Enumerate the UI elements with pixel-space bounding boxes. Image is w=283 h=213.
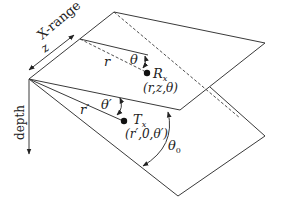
upper-plane-right-edge — [180, 43, 265, 110]
x-range-arrow — [29, 35, 74, 70]
theta-prime-arc — [117, 98, 121, 115]
transmitter-coords: (r′,0,θ′) — [125, 127, 168, 141]
receiver-point — [144, 70, 150, 76]
theta0-label: θ0 — [168, 138, 181, 155]
receiver-coords: (r,z,θ) — [143, 81, 178, 95]
depth-label: depth — [13, 105, 27, 140]
lower-plane-bottom-edge — [178, 136, 265, 196]
transmitter-point — [121, 118, 127, 124]
x-range-label: X-range — [34, 0, 83, 42]
upper-plane-top-edge — [114, 12, 265, 43]
geometry-diagram: X-range z depth r θ Rx (r,z,θ) r′ θ′ Tx … — [0, 0, 283, 213]
theta-label: θ — [130, 52, 138, 67]
theta-arc — [143, 56, 146, 68]
r-prime-label: r′ — [80, 102, 89, 117]
diagram-canvas: X-range z depth r θ Rx (r,z,θ) r′ θ′ Tx … — [0, 0, 283, 213]
lower-plane-right-edge — [210, 87, 265, 136]
r-label: r — [104, 54, 111, 69]
theta-prime-label: θ′ — [101, 97, 112, 112]
